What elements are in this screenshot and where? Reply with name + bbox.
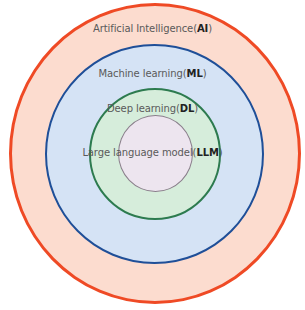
llm-label-name: Large language model — [82, 147, 192, 158]
llm-label-abbr: LLM — [196, 147, 218, 158]
ai-label-abbr: AI — [197, 23, 208, 34]
llm-label: Large language model(LLM) — [0, 147, 305, 159]
ai-label-name: Artificial Intelligence — [93, 23, 193, 34]
dl-label-name: Deep learning — [107, 103, 176, 114]
ml-label-name: Machine learning — [99, 68, 183, 79]
dl-label-abbr: DL — [180, 103, 194, 114]
ai-label: Artificial Intelligence(AI) — [0, 23, 305, 35]
dl-label: Deep learning(DL) — [0, 103, 305, 115]
ml-label: Machine learning(ML) — [0, 68, 305, 80]
ml-label-abbr: ML — [187, 68, 203, 79]
ai-hierarchy-diagram: Artificial Intelligence(AI) Machine lear… — [0, 0, 305, 310]
